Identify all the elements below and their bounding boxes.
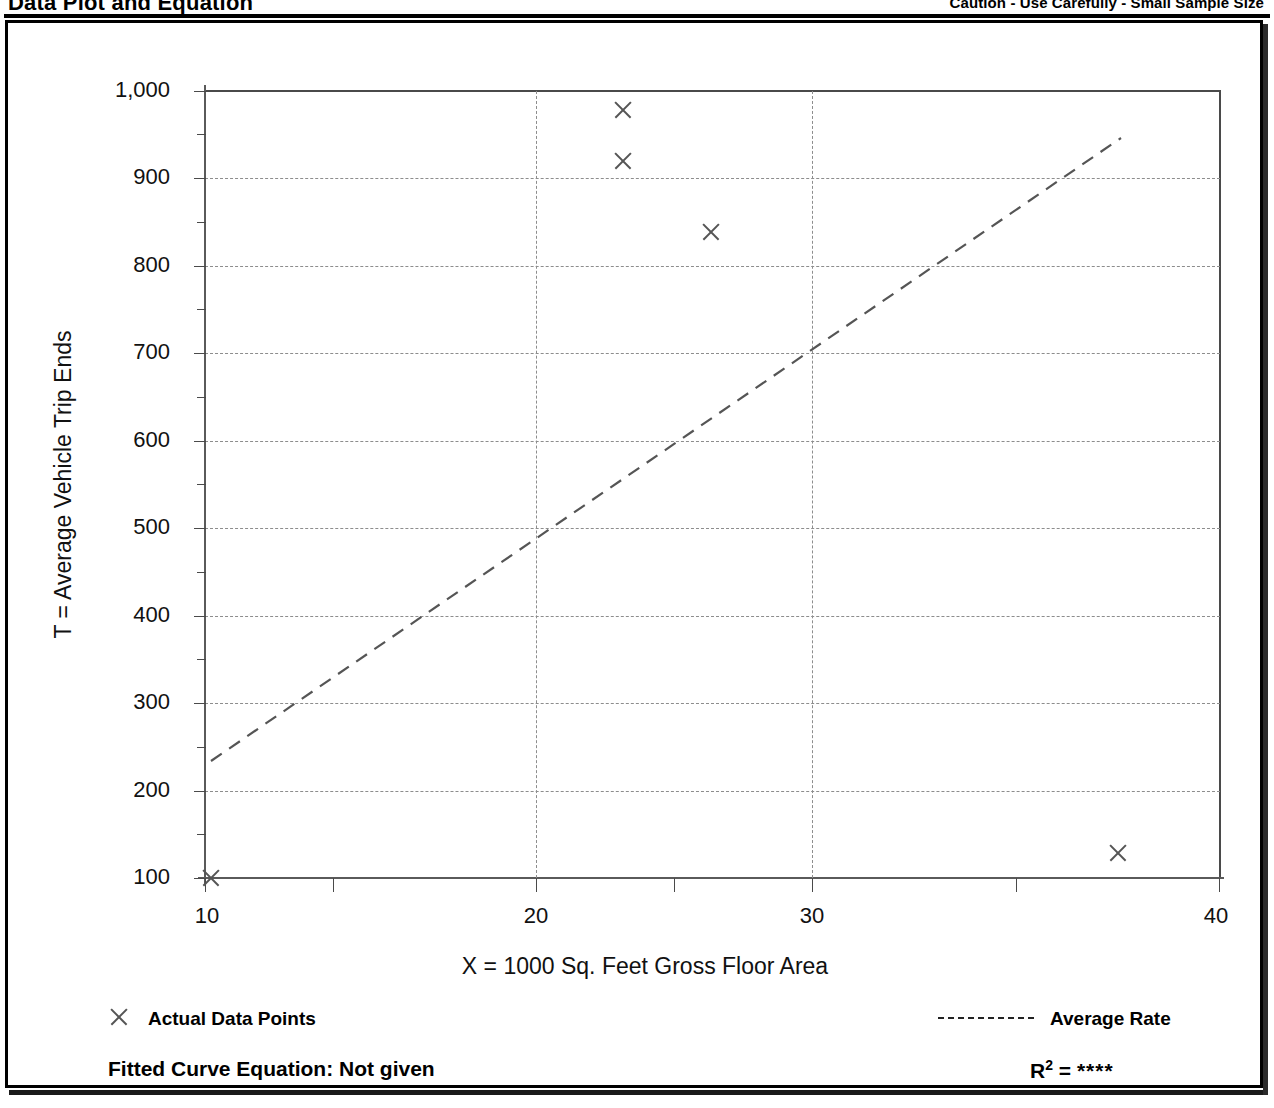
r-squared-equals-sign: = xyxy=(1059,1059,1071,1082)
y-tick-300 xyxy=(194,703,206,704)
x-tick-10 xyxy=(205,878,206,892)
gridline-y-200 xyxy=(205,791,1220,792)
data-point-3 xyxy=(612,150,634,172)
data-point-2 xyxy=(612,99,634,121)
y-axis-label-900: 900 xyxy=(133,164,170,190)
x-tick-minor-37 xyxy=(1016,878,1017,892)
y-tick-200 xyxy=(194,791,206,792)
figure-frame: T = Average Vehicle Trip Ends 1,000 900 … xyxy=(5,20,1263,1088)
x-axis-line xyxy=(198,877,1224,879)
x-tick-40 xyxy=(1219,878,1220,892)
plot-right-border xyxy=(1219,90,1221,879)
y-axis-label-700: 700 xyxy=(133,339,170,365)
gridline-y-300 xyxy=(205,703,1220,704)
fitted-curve-equation: Fitted Curve Equation: Not given xyxy=(108,1057,435,1081)
y-axis-label-300: 300 xyxy=(133,689,170,715)
y-axis-label-500: 500 xyxy=(133,514,170,540)
x-tick-minor-13 xyxy=(333,878,334,892)
x-tick-30 xyxy=(812,878,813,892)
gridline-x-30 xyxy=(812,91,813,878)
x-axis-label-40: 40 xyxy=(1204,903,1228,929)
gridline-x-20 xyxy=(536,91,537,878)
x-axis-label-10: 10 xyxy=(195,903,219,929)
y-axis-label-100: 100 xyxy=(133,864,170,890)
x-axis-label-20: 20 xyxy=(524,903,548,929)
r-squared-stars: **** xyxy=(1077,1059,1114,1082)
gridline-y-900 xyxy=(205,178,1220,179)
x-tick-20 xyxy=(536,878,537,892)
gridline-y-700 xyxy=(205,353,1220,354)
y-tick-minor-350 xyxy=(197,659,206,660)
r-squared-value: R2 = **** xyxy=(1030,1057,1114,1083)
x-axis-label-30: 30 xyxy=(800,903,824,929)
y-axis-line xyxy=(204,85,206,885)
x-axis-title: X = 1000 Sq. Feet Gross Floor Area xyxy=(8,953,1274,980)
y-tick-minor-850 xyxy=(197,222,206,223)
frame-shadow-bottom xyxy=(9,1090,1265,1095)
dashed-line-icon xyxy=(938,1017,1034,1019)
gridline-y-800 xyxy=(205,266,1220,267)
y-tick-minor-450 xyxy=(197,572,206,573)
y-tick-minor-550 xyxy=(197,484,206,485)
header-divider-rule xyxy=(4,14,1270,18)
y-tick-700 xyxy=(194,353,206,354)
gridline-y-600 xyxy=(205,441,1220,442)
data-point-5 xyxy=(1107,842,1129,864)
y-tick-1000 xyxy=(194,91,206,92)
y-tick-600 xyxy=(194,441,206,442)
frame-shadow-right xyxy=(1263,24,1268,1095)
x-cross-marker-icon xyxy=(108,1006,130,1028)
gridline-y-500 xyxy=(205,528,1220,529)
y-axis-label-600: 600 xyxy=(133,427,170,453)
gridline-y-400 xyxy=(205,616,1220,617)
chart-legend: Actual Data Points Average Rate xyxy=(8,998,1274,1032)
legend-actual-data-points-label: Actual Data Points xyxy=(148,1008,316,1030)
y-axis-label-400: 400 xyxy=(133,602,170,628)
y-tick-minor-950 xyxy=(197,134,206,135)
plot-top-border xyxy=(205,90,1221,92)
y-tick-minor-650 xyxy=(197,397,206,398)
y-tick-500 xyxy=(194,528,206,529)
y-tick-minor-250 xyxy=(197,747,206,748)
y-tick-minor-150 xyxy=(197,834,206,835)
y-axis-label-1000: 1,000 xyxy=(115,77,170,103)
y-axis-label-800: 800 xyxy=(133,252,170,278)
average-rate-trend-line xyxy=(8,23,1274,1108)
y-tick-minor-750 xyxy=(197,309,206,310)
y-axis-label-200: 200 xyxy=(133,777,170,803)
y-tick-400 xyxy=(194,616,206,617)
caution-note: Caution - Use Carefully - Small Sample S… xyxy=(950,0,1264,11)
y-axis-title: T = Average Vehicle Trip Ends xyxy=(50,215,77,755)
r-squared-exponent: 2 xyxy=(1045,1057,1053,1073)
y-tick-800 xyxy=(194,266,206,267)
r-squared-letter: R xyxy=(1030,1059,1045,1082)
legend-average-rate-label: Average Rate xyxy=(1050,1008,1171,1030)
y-tick-900 xyxy=(194,178,206,179)
x-tick-minor-25 xyxy=(674,878,675,892)
chart-footer: Fitted Curve Equation: Not given R2 = **… xyxy=(8,1053,1274,1093)
data-point-4 xyxy=(700,221,722,243)
